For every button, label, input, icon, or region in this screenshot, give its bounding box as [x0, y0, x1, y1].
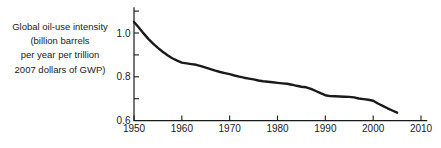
oil-intensity-figure: Global oil-use intensity (billion barrel…: [0, 0, 441, 148]
data-line: [134, 22, 397, 113]
x-tick-label: 2000: [362, 123, 385, 134]
x-tick-label: 1980: [266, 123, 289, 134]
x-tick-label: 1970: [219, 123, 242, 134]
x-tick-label: 1950: [123, 123, 146, 134]
line-chart: 0.60.81.01950196019701980199020002010: [0, 0, 441, 148]
y-tick-label: 0.8: [117, 71, 131, 82]
y-tick-label: 1.0: [117, 28, 131, 39]
x-tick-label: 1990: [314, 123, 337, 134]
x-tick-label: 2010: [410, 123, 433, 134]
x-tick-label: 1960: [171, 123, 194, 134]
